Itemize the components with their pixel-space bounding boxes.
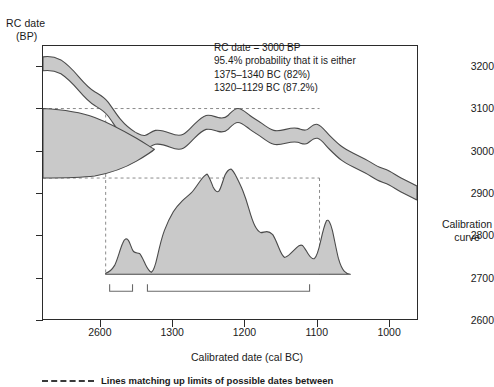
y-axis-title-line1: RC date	[6, 17, 45, 29]
dashed-line-sample-icon	[42, 380, 94, 382]
x-tick-mark-1200	[244, 320, 245, 327]
x-tick-mark-1300	[172, 320, 173, 327]
y-tick-label-2700: 2700	[460, 272, 494, 284]
x-axis-title: Calibrated date (cal BC)	[0, 351, 494, 363]
footnote: Lines matching up limits of possible dat…	[42, 375, 333, 386]
x-tick-label-1300: 1300	[160, 326, 183, 338]
y-tick-mark-2600	[36, 320, 43, 321]
x-tick-label-1200: 1200	[233, 326, 256, 338]
calibration-curve-label-line1: Calibration	[441, 218, 493, 231]
calibrated-date-distribution	[106, 169, 351, 274]
annotation-box: RC date = 3000 BP 95.4% probability that…	[214, 41, 356, 95]
x-tick-mark-2600	[100, 320, 101, 327]
y-tick-label-3000: 3000	[460, 145, 494, 157]
calibration-curve-figure: RC date (BP) 320031003000290028002700260…	[0, 0, 494, 387]
calibration-curve-label-line2: curve	[441, 231, 493, 244]
x-tick-label-1100: 1100	[305, 326, 328, 338]
range-brackets	[110, 284, 310, 291]
y-tick-label-3200: 3200	[460, 60, 494, 72]
x-tick-label-2600: 2600	[88, 326, 111, 338]
y-tick-label-2900: 2900	[460, 187, 494, 199]
x-tick-label-1000: 1000	[377, 326, 400, 338]
rc-date-distribution	[43, 109, 154, 178]
range-bracket-1	[110, 284, 133, 291]
annotation-line-1: RC date = 3000 BP	[214, 41, 356, 54]
y-axis-title: RC date (BP)	[6, 4, 45, 56]
y-tick-label-2600: 2600	[460, 314, 494, 326]
annotation-line-3: 1375–1340 BC (82%)	[214, 68, 356, 81]
y-axis-title-line2: (BP)	[6, 30, 45, 43]
x-tick-mark-1100	[317, 320, 318, 327]
annotation-line-4: 1320–1129 BC (87.2%)	[214, 81, 356, 94]
calibration-curve-label: Calibration curve	[441, 218, 493, 244]
range-bracket-2	[147, 284, 309, 291]
annotation-line-2: 95.4% probability that it is either	[214, 54, 356, 67]
y-tick-label-3100: 3100	[460, 102, 494, 114]
x-tick-mark-1000	[389, 320, 390, 327]
footnote-text: Lines matching up limits of possible dat…	[101, 375, 333, 386]
